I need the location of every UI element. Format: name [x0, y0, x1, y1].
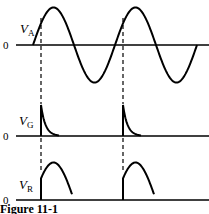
label-vr: VR	[19, 177, 33, 194]
panel-load-voltage: 0 VR	[3, 163, 209, 207]
zero-label-g: 0	[3, 130, 9, 142]
load-pulse-2	[123, 163, 154, 201]
label-vg: VG	[19, 113, 34, 130]
scr-waveform-diagram: 0 VA 0 VG 0 VR Figure 11-1	[0, 0, 209, 214]
panel-gate-voltage: 0 VG	[3, 105, 209, 142]
panel-anode-voltage: 0 VA	[3, 8, 209, 83]
gate-spike-2	[123, 105, 141, 136]
load-pulse-1	[41, 163, 72, 201]
label-va: VA	[20, 21, 35, 38]
zero-label-a: 0	[3, 39, 9, 51]
figure-caption: Figure 11-1	[0, 202, 58, 214]
gate-spike-1	[41, 105, 59, 136]
